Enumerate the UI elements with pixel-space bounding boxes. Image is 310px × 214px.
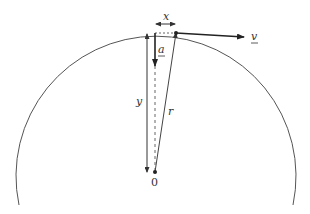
center-point: [153, 170, 157, 174]
v-label: v: [251, 30, 258, 43]
particle-point: [174, 31, 178, 35]
velocity-arrow: [176, 33, 244, 37]
center-label: 0: [151, 176, 158, 189]
a-label: a: [158, 43, 165, 56]
y-label: y: [135, 95, 143, 108]
x-label: x: [163, 10, 170, 23]
circular-motion-diagram: x y a r v 0: [0, 0, 310, 214]
r-label: r: [168, 105, 174, 118]
